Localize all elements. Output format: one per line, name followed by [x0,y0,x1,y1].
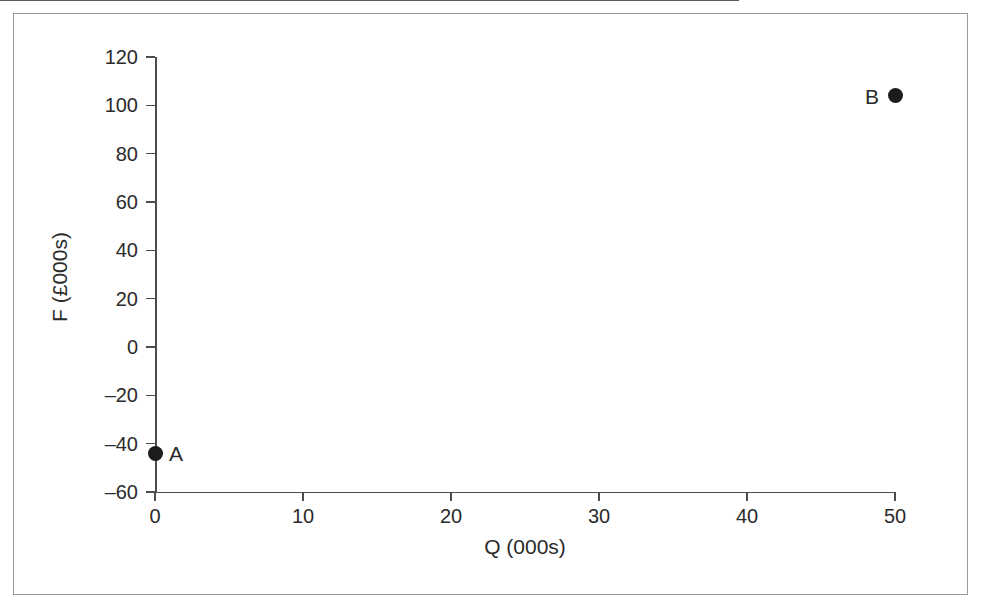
y-tick-mark [146,56,155,58]
x-tick-mark [154,492,156,501]
y-tick-label: 0 [127,337,138,357]
x-tick-mark [450,492,452,501]
x-tick-label: 0 [115,506,195,526]
zero-reference-line [0,0,739,1]
y-tick-label: 80 [116,144,138,164]
chart-page: 120100806040200‒20‒40‒60 01020304050 AB … [0,0,983,612]
x-tick-mark [894,492,896,501]
y-tick-label: 120 [105,47,138,67]
y-tick-label: ‒60 [105,482,138,502]
plot-area: 120100806040200‒20‒40‒60 01020304050 AB … [0,0,983,612]
y-tick-label: ‒40 [105,434,138,454]
y-tick-mark [146,250,155,252]
x-tick-mark [746,492,748,501]
x-tick-mark [302,492,304,501]
data-point-a[interactable] [148,446,163,461]
y-tick-mark [146,201,155,203]
y-tick-label: 40 [116,240,138,260]
x-tick-label: 30 [559,506,639,526]
x-tick-label: 20 [411,506,491,526]
x-axis-title: Q (000s) [355,535,695,559]
y-tick-mark [146,105,155,107]
x-tick-label: 40 [707,506,787,526]
x-tick-label: 50 [855,506,935,526]
y-axis-title: F (£000s) [48,177,72,377]
y-tick-label: ‒20 [105,385,138,405]
data-point-b[interactable] [888,88,903,103]
y-tick-mark [146,443,155,445]
y-tick-mark [146,153,155,155]
x-axis-spine [155,492,896,494]
y-tick-mark [146,298,155,300]
x-tick-label: 10 [263,506,343,526]
y-tick-label: 20 [116,289,138,309]
x-tick-mark [598,492,600,501]
y-tick-mark [146,346,155,348]
y-tick-label: 100 [105,95,138,115]
y-tick-label: 60 [116,192,138,212]
data-point-label-b: B [865,86,879,107]
y-axis-spine [155,57,157,493]
data-point-label-a: A [169,443,183,464]
y-tick-mark [146,395,155,397]
